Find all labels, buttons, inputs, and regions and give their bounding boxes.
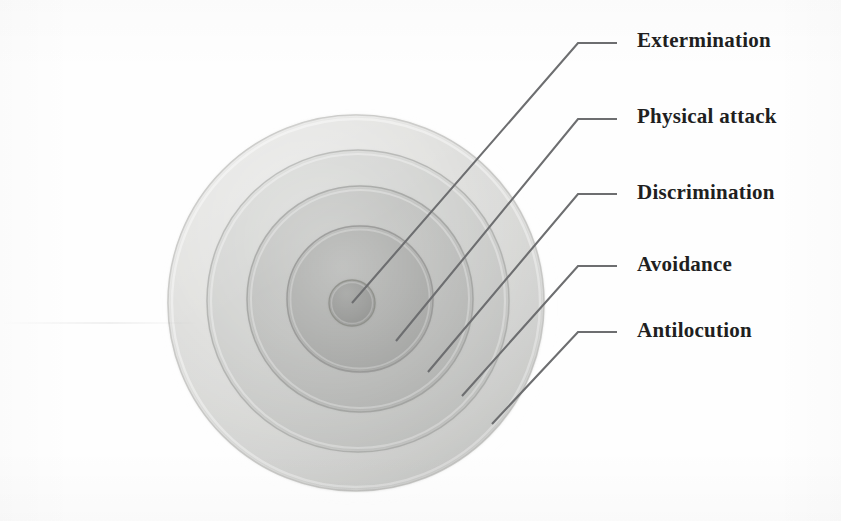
concentric-rings-diagram [150, 105, 570, 505]
label-discrimination[interactable]: Discrimination [637, 182, 775, 203]
allport-scale-figure: Extermination Physical attack Discrimina… [0, 0, 841, 521]
rings-svg [150, 105, 570, 505]
ring-bevel-sheen [168, 115, 544, 491]
label-physical-attack[interactable]: Physical attack [637, 106, 777, 127]
label-avoidance[interactable]: Avoidance [637, 254, 732, 275]
label-antilocution[interactable]: Antilocution [637, 320, 752, 341]
label-extermination[interactable]: Extermination [637, 30, 771, 51]
